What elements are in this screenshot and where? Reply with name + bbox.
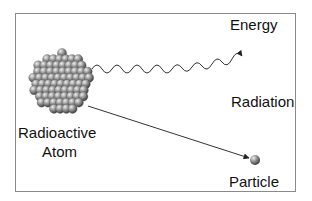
particle-trajectory [88, 106, 249, 158]
particle-label: Particle [229, 173, 279, 190]
energy-wave [92, 53, 242, 73]
energy-label: Energy [230, 16, 278, 33]
atom-label-line2: Atom [42, 143, 77, 160]
particle-icon [250, 155, 260, 165]
radiation-label: Radiation [231, 93, 294, 110]
radioactive-decay-diagram: Energy Radiation Radioactive Atom Partic… [0, 0, 312, 201]
atom-label-line1: Radioactive [18, 124, 96, 141]
atom-nucleus-icon [29, 48, 94, 113]
